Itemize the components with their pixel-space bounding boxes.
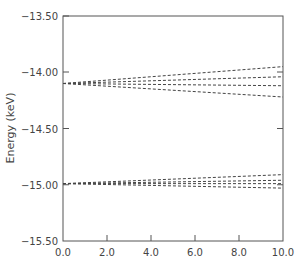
y-tick-label: −15.50 xyxy=(21,236,58,247)
y-tick-label: −14.50 xyxy=(21,124,58,135)
y-tick-label: −14.00 xyxy=(21,67,58,78)
series-lines xyxy=(63,67,283,189)
series-line-upper-3 xyxy=(63,84,283,86)
x-tick-label: 10.0 xyxy=(272,247,294,258)
x-tick-label: 4.0 xyxy=(143,247,159,258)
x-tick-label: 2.0 xyxy=(99,247,115,258)
plot-frame xyxy=(63,16,283,241)
y-axis xyxy=(63,16,283,185)
x-axis xyxy=(107,235,239,241)
x-tick-labels: 0.0 2.0 4.0 6.0 8.0 10.0 xyxy=(55,247,294,258)
y-tick-label: −13.50 xyxy=(21,11,58,22)
y-axis-label: Energy (keV) xyxy=(4,93,17,164)
series-line-lower-4 xyxy=(63,184,283,189)
y-tick-labels: −13.50 −14.00 −14.50 −15.00 −15.50 xyxy=(21,11,58,247)
energy-chart: −13.50 −14.00 −14.50 −15.00 −15.50 0.0 2… xyxy=(0,0,305,279)
x-tick-label: 8.0 xyxy=(231,247,247,258)
series-line-lower-2 xyxy=(63,180,283,183)
y-tick-label: −15.00 xyxy=(21,180,58,191)
series-line-upper-1 xyxy=(63,67,283,84)
series-line-upper-2 xyxy=(63,77,283,84)
x-tick-label: 6.0 xyxy=(187,247,203,258)
x-tick-label: 0.0 xyxy=(55,247,71,258)
